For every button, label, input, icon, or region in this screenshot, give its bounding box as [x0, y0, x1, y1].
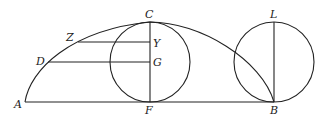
label-d: D — [35, 55, 45, 68]
label-l: L — [269, 8, 277, 21]
label-g: G — [153, 56, 162, 69]
label-f: F — [144, 104, 153, 116]
label-z: Z — [65, 31, 74, 44]
label-a: A — [13, 98, 22, 111]
diagram-canvas: A C Z D Y G F L B — [0, 0, 330, 116]
label-b: B — [269, 104, 278, 116]
label-y: Y — [153, 37, 162, 50]
label-c: C — [145, 8, 154, 21]
